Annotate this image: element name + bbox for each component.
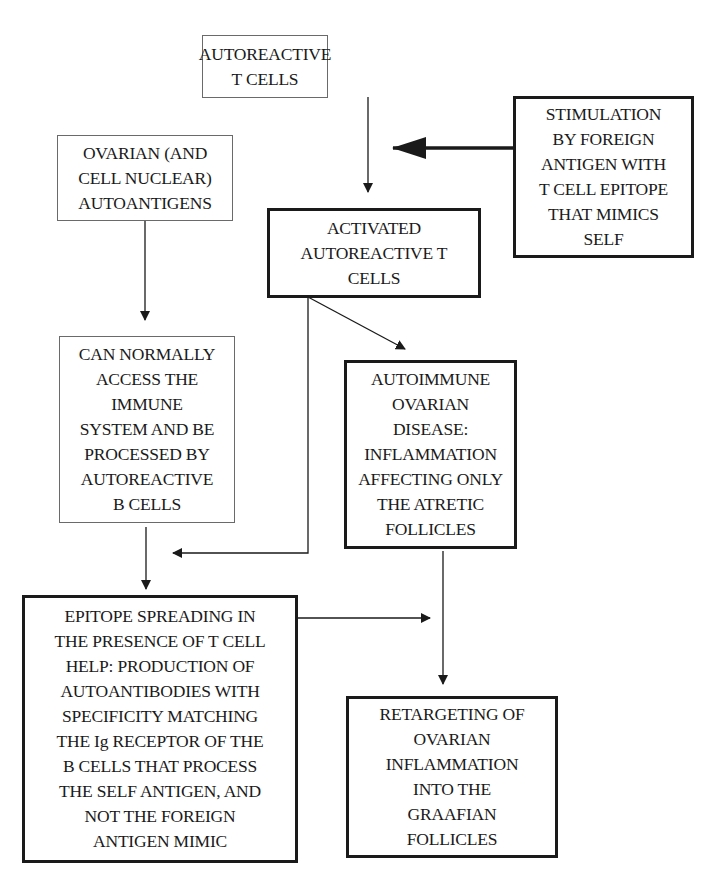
node-autoimmune-ovarian-disease: AUTOIMMUNE OVARIAN DISEASE: INFLAMMATION… <box>344 360 517 549</box>
node-text-line: OVARIAN <box>392 392 469 417</box>
node-stimulation-foreign-antigen: STIMULATION BY FOREIGN ANTIGEN WITH T CE… <box>513 96 694 258</box>
node-autoreactive-t-cells: AUTOREACTIVE T CELLS <box>202 35 328 98</box>
node-text-line: THE Ig RECEPTOR OF THE <box>57 729 264 754</box>
node-text-line: B CELLS THAT PROCESS <box>63 754 257 779</box>
node-text-line: ACCESS THE <box>96 367 198 392</box>
node-text-line: B CELLS <box>113 492 181 517</box>
node-text-line: INTO THE <box>413 777 491 802</box>
node-text-line: EPITOPE SPREADING IN <box>64 604 255 629</box>
node-text-line: INFLAMMATION <box>364 442 497 467</box>
node-text-line: SPECIFICITY MATCHING <box>62 704 258 729</box>
node-text-line: OVARIAN (AND <box>83 141 207 166</box>
node-text-line: AUTOREACTIVE <box>199 42 331 67</box>
node-text-line: SYSTEM AND BE <box>80 417 215 442</box>
node-text-line: FOLLICLES <box>385 517 476 542</box>
node-text-line: ANTIGEN MIMIC <box>93 829 227 854</box>
node-text-line: T CELLS <box>232 67 299 92</box>
node-text-line: DISEASE: <box>393 417 468 442</box>
node-text-line: ACTIVATED <box>327 216 421 241</box>
node-text-line: CAN NORMALLY <box>79 342 215 367</box>
node-text-line: AFFECTING ONLY <box>358 467 503 492</box>
node-text-line: AUTOANTIBODIES WITH <box>60 679 259 704</box>
node-text-line: THE SELF ANTIGEN, AND <box>59 779 261 804</box>
node-text-line: AUTOANTIGENS <box>78 191 211 216</box>
node-text-line: CELL NUCLEAR) <box>78 166 211 191</box>
node-text-line: THE PRESENCE OF T CELL <box>55 629 266 654</box>
node-text-line: HELP: PRODUCTION OF <box>66 654 255 679</box>
node-text-line: PROCESSED BY <box>84 442 209 467</box>
node-text-line: CELLS <box>348 266 400 291</box>
arrow-activated-to-autoimmune <box>308 297 405 349</box>
node-text-line: AUTOREACTIVE T <box>301 241 448 266</box>
node-activated-autoreactive-t-cells: ACTIVATED AUTOREACTIVE T CELLS <box>267 208 481 298</box>
node-epitope-spreading: EPITOPE SPREADING IN THE PRESENCE OF T C… <box>22 595 298 863</box>
node-text-line: T CELL EPITOPE <box>539 177 668 202</box>
node-text-line: RETARGETING OF <box>379 702 524 727</box>
node-text-line: AUTOREACTIVE <box>81 467 213 492</box>
node-access-immune-system: CAN NORMALLY ACCESS THE IMMUNE SYSTEM AN… <box>59 336 235 523</box>
node-text-line: OVARIAN <box>413 727 490 752</box>
node-text-line: BY FOREIGN <box>553 127 655 152</box>
node-text-line: FOLLICLES <box>407 827 498 852</box>
node-text-line: GRAAFIAN <box>408 802 497 827</box>
node-retargeting-inflammation: RETARGETING OF OVARIAN INFLAMMATION INTO… <box>346 696 558 858</box>
node-text-line: THAT MIMICS <box>548 202 659 227</box>
node-text-line: STIMULATION <box>546 102 661 127</box>
node-text-line: THE ATRETIC <box>377 492 484 517</box>
node-text-line: AUTOIMMUNE <box>371 367 490 392</box>
node-text-line: IMMUNE <box>111 392 183 417</box>
node-text-line: ANTIGEN WITH <box>541 152 666 177</box>
node-text-line: INFLAMMATION <box>386 752 519 777</box>
node-text-line: SELF <box>583 227 623 252</box>
node-text-line: NOT THE FOREIGN <box>85 804 236 829</box>
node-ovarian-autoantigens: OVARIAN (AND CELL NUCLEAR) AUTOANTIGENS <box>57 135 233 221</box>
